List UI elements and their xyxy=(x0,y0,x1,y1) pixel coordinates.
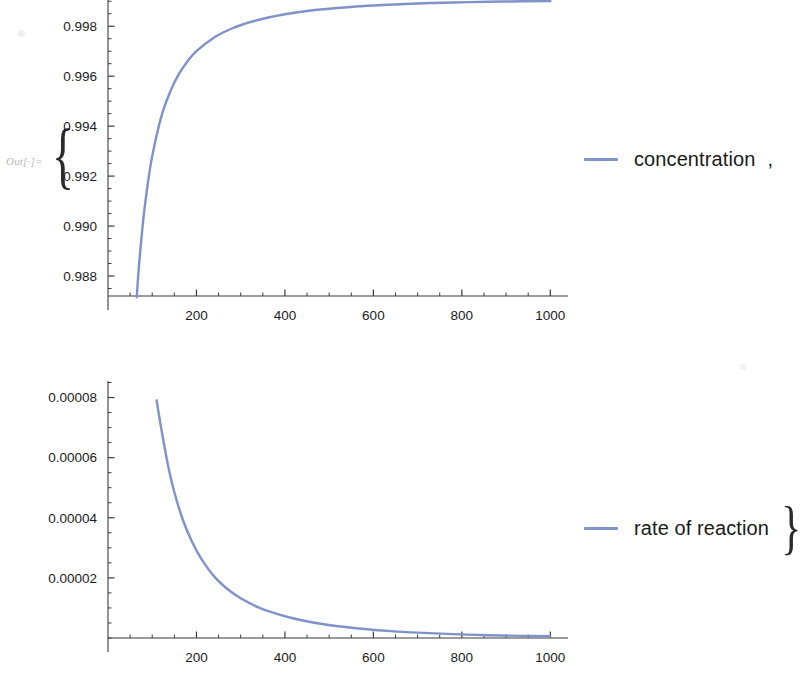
svg-text:600: 600 xyxy=(362,308,385,323)
legend-swatch-rate xyxy=(584,527,618,530)
plot-rate-curve xyxy=(157,401,551,637)
svg-text:0.00002: 0.00002 xyxy=(48,571,97,586)
plot-concentration-svg: 20040060080010000.9880.9900.9920.9940.99… xyxy=(0,0,600,340)
legend-swatch-concentration xyxy=(584,158,618,161)
plot-rate-of-reaction-svg: 20040060080010000.000020.000040.000060.0… xyxy=(0,355,600,674)
legend-concentration: concentration , xyxy=(584,148,773,171)
group-brace-close: } xyxy=(781,497,801,557)
svg-text:600: 600 xyxy=(362,650,385,665)
svg-text:0.990: 0.990 xyxy=(63,219,97,234)
svg-text:400: 400 xyxy=(274,308,297,323)
plot-rate-of-reaction: 20040060080010000.000020.000040.000060.0… xyxy=(0,355,600,674)
svg-text:0.00006: 0.00006 xyxy=(48,450,97,465)
svg-text:0.994: 0.994 xyxy=(63,119,97,134)
svg-text:0.00004: 0.00004 xyxy=(48,511,97,526)
svg-text:0.998: 0.998 xyxy=(63,19,97,34)
svg-text:0.992: 0.992 xyxy=(63,169,97,184)
svg-text:1000: 1000 xyxy=(535,650,565,665)
legend-label-rate: rate of reaction xyxy=(634,517,769,540)
legend-rate-of-reaction: rate of reaction xyxy=(584,517,769,540)
legend-separator-comma: , xyxy=(767,148,773,171)
plot-rate-axes xyxy=(108,381,568,652)
svg-text:400: 400 xyxy=(274,650,297,665)
plot-concentration: 20040060080010000.9880.9900.9920.9940.99… xyxy=(0,0,600,340)
svg-text:200: 200 xyxy=(185,650,208,665)
legend-label-concentration: concentration xyxy=(634,148,755,171)
notebook-output-canvas: Out[·]= { } 20040060080010000.9880.9900.… xyxy=(0,0,809,674)
svg-text:1000: 1000 xyxy=(535,308,565,323)
plot-concentration-axes xyxy=(108,0,568,310)
svg-text:200: 200 xyxy=(185,308,208,323)
plot-concentration-curve xyxy=(137,1,551,297)
scan-artifact-right xyxy=(740,364,746,370)
svg-text:0.00008: 0.00008 xyxy=(48,390,97,405)
svg-text:800: 800 xyxy=(451,308,474,323)
svg-text:0.988: 0.988 xyxy=(63,269,97,284)
svg-text:800: 800 xyxy=(451,650,474,665)
plot-rate-tick-labels: 20040060080010000.000020.000040.000060.0… xyxy=(48,390,565,665)
svg-text:0.996: 0.996 xyxy=(63,69,97,84)
